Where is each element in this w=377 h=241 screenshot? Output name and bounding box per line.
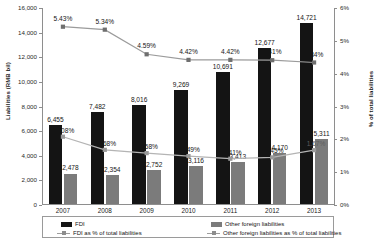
legend-other-pct[interactable]: Other foreign liabilities as % of total …: [207, 230, 341, 236]
other-pct-marker: [61, 135, 65, 139]
y-axis-right-tick-label: 3%: [340, 104, 377, 110]
y-axis-right-tick-label: 5%: [340, 38, 377, 44]
y-axis-left-tick-label: 8,000: [0, 104, 37, 110]
fdi-pct-value-label: 4.34%: [298, 52, 330, 59]
y-axis-left-tick-label: 4,000: [0, 153, 37, 159]
fdi-pct-marker: [312, 60, 316, 64]
fdi-pct-value-label: 4.42%: [214, 49, 246, 56]
other-pct-value-label: 1.49%: [176, 147, 206, 154]
legend-other-foreign-liabilities-swatch-icon: [211, 222, 222, 227]
y-axis-right-tick: [334, 205, 337, 206]
y-axis-right-tick-label: 1%: [340, 169, 377, 175]
x-axis-label-2009: 2009: [129, 208, 165, 214]
y-axis-right-title: % of total liabilities: [368, 69, 374, 129]
legend-fdi[interactable]: FDI: [61, 221, 85, 227]
chart-legend: FDIOther foreign liabilitiesFDI as % of …: [42, 216, 334, 238]
y-axis-left-title: Liabilities (RMB bil): [5, 61, 11, 121]
legend-other-foreign-liabilities[interactable]: Other foreign liabilities: [211, 221, 284, 227]
fdi-pct-marker: [61, 25, 65, 29]
legend-fdi-swatch-icon: [61, 222, 72, 227]
other-pct-value-label: 1.45%: [259, 148, 289, 155]
y-axis-right-tick-label: 2%: [340, 136, 377, 142]
y-axis-left-tick-label: 6,000: [0, 128, 37, 134]
y-axis-left-tick-label: 16,000: [0, 5, 37, 11]
y-axis-left-tick-label: 12,000: [0, 54, 37, 60]
fdi-pct-value-label: 4.41%: [256, 49, 288, 56]
x-axis-label-2008: 2008: [87, 208, 123, 214]
other-pct-value-label: 1.41%: [217, 150, 247, 157]
fdi-pct-value-label: 4.59%: [131, 43, 163, 50]
x-axis-label-2013: 2013: [296, 208, 332, 214]
other-pct-marker: [186, 154, 190, 158]
other-pct-marker: [145, 151, 149, 155]
fdi-pct-value-label: 4.42%: [173, 49, 205, 56]
other-pct-marker: [312, 148, 316, 152]
other-pct-marker: [228, 157, 232, 161]
y-axis-right-tick-label: 4%: [340, 71, 377, 77]
fdi-pct-marker: [103, 28, 107, 32]
legend-other-pct-label: Other foreign liabilities as % of total …: [223, 230, 341, 236]
y-axis-left-tick-label: 0: [0, 202, 37, 208]
legend-other-pct-line-marker-icon: [207, 231, 220, 236]
line-series-group: [42, 8, 335, 205]
x-axis-label-2011: 2011: [212, 208, 248, 214]
other-pct-marker: [103, 148, 107, 152]
other-pct-value-label: 1.67%: [301, 141, 331, 148]
y-axis-left-tick: [39, 205, 42, 206]
fdi-pct-value-label: 5.43%: [47, 16, 79, 23]
x-axis-label-2012: 2012: [254, 208, 290, 214]
y-axis-left-tick-label: 14,000: [0, 30, 37, 36]
other-pct-value-label: 1.58%: [134, 144, 164, 151]
chart-container: Liabilities (RMB bil) % of total liabili…: [0, 0, 377, 241]
other-pct-value-label: 2.08%: [50, 128, 80, 135]
fdi-pct-line: [63, 27, 314, 63]
other-pct-value-label: 1.68%: [92, 141, 122, 148]
x-axis-label-2007: 2007: [45, 208, 81, 214]
fdi-pct-value-label: 5.34%: [89, 19, 121, 26]
other-pct-marker: [270, 155, 274, 159]
fdi-pct-marker: [145, 52, 149, 56]
fdi-pct-marker: [186, 58, 190, 62]
legend-fdi-label: FDI: [75, 221, 85, 227]
legend-fdi-pct-line-marker-icon: [57, 231, 70, 236]
legend-other-foreign-liabilities-label: Other foreign liabilities: [225, 221, 284, 227]
plot-area: 02,0004,0006,0008,00010,00012,00014,0001…: [42, 8, 335, 205]
fdi-pct-marker: [228, 58, 232, 62]
legend-fdi-pct[interactable]: FDI as % of total liabilities: [57, 230, 142, 236]
legend-fdi-pct-label: FDI as % of total liabilities: [73, 230, 142, 236]
x-axis-label-2010: 2010: [171, 208, 207, 214]
y-axis-right-tick-label: 6%: [340, 5, 377, 11]
y-axis-right-tick-label: 0%: [340, 202, 377, 208]
y-axis-left-tick-label: 10,000: [0, 79, 37, 85]
fdi-pct-marker: [270, 58, 274, 62]
y-axis-left-tick-label: 2,000: [0, 177, 37, 183]
